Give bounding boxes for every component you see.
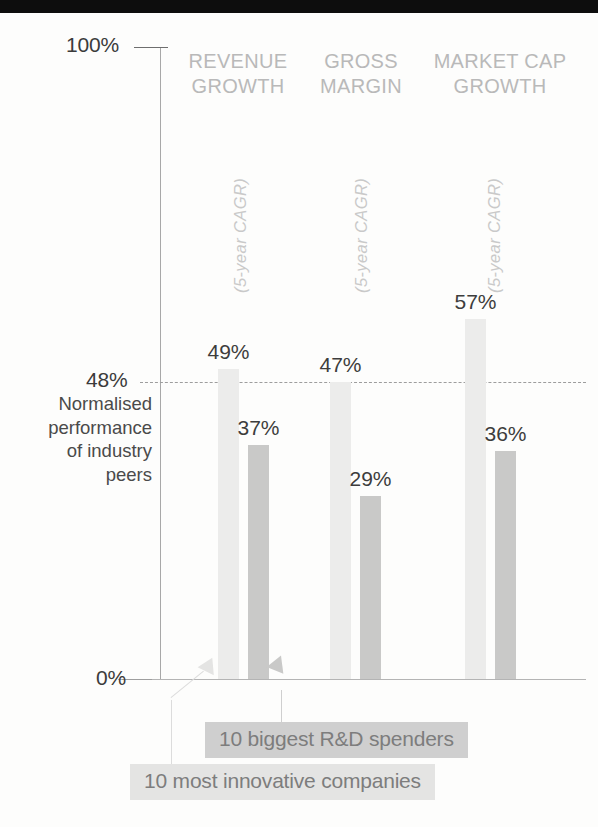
- column-header-gross-margin: GROSS MARGIN: [306, 49, 416, 99]
- bar-marketcap-rd: [495, 451, 516, 679]
- bar-marketcap-innovative: [465, 319, 486, 679]
- y-tick-100: [134, 47, 168, 48]
- leader-line-innovative-vertical: [171, 700, 172, 764]
- legend-item-innovative-companies[interactable]: 10 most innovative companies: [130, 764, 435, 800]
- y-axis-min-label: 0%: [96, 666, 126, 690]
- footnote-cropped: [8, 812, 568, 826]
- cagr-caption-margin: (5-year CAGR): [352, 178, 371, 293]
- bar-value-revenue-innovative: 49%: [199, 340, 259, 364]
- reference-line-48: [140, 382, 586, 383]
- bar-margin-innovative: [330, 382, 351, 679]
- y-axis-max-label: 100%: [66, 33, 119, 57]
- figure-canvas: 100% 0% 48% Normalised performance of in…: [0, 0, 598, 827]
- bar-value-margin-rd: 29%: [341, 467, 401, 491]
- y-axis-caption: Normalised performance of industry peers: [0, 392, 152, 486]
- bar-value-marketcap-rd: 36%: [476, 422, 536, 446]
- leader-line-rd-vertical: [281, 690, 282, 724]
- y-axis-line: [160, 47, 161, 680]
- leader-line-innovative-diagonal: [171, 671, 204, 698]
- reference-value-label: 48%: [86, 368, 127, 392]
- y-axis-caption-line-3: of industry: [0, 439, 152, 463]
- x-axis-baseline: [118, 679, 586, 680]
- bar-value-margin-innovative: 47%: [311, 353, 371, 377]
- bar-margin-rd: [360, 496, 381, 679]
- bar-value-revenue-rd: 37%: [229, 416, 289, 440]
- column-header-revenue-growth: REVENUE GROWTH: [176, 49, 300, 99]
- y-axis-caption-line-1: Normalised: [0, 392, 152, 416]
- y-axis-caption-line-4: peers: [0, 463, 152, 487]
- bar-revenue-rd: [248, 445, 269, 679]
- bar-chart-plot: 100% 0% 48% Normalised performance of in…: [0, 0, 598, 827]
- column-header-market-cap-growth: MARKET CAP GROWTH: [414, 49, 586, 99]
- arrow-head-rd: [267, 652, 290, 674]
- legend-item-rd-spenders[interactable]: 10 biggest R&D spenders: [205, 722, 468, 758]
- y-axis-caption-line-2: performance: [0, 416, 152, 440]
- y-tick-0: [122, 679, 152, 680]
- bar-value-marketcap-innovative: 57%: [446, 290, 506, 314]
- cagr-caption-revenue: (5-year CAGR): [231, 178, 250, 293]
- cagr-caption-marketcap: (5-year CAGR): [485, 178, 504, 293]
